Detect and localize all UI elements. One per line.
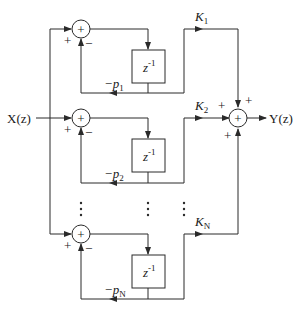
sum-2-to-delay (90, 118, 148, 138)
out-sum-plus-bottom: + (224, 128, 231, 143)
feedback-1-label: −p1 (104, 76, 124, 93)
feedback-2-label: −p2 (104, 166, 124, 183)
output-summer-plus-icon: + (234, 111, 241, 126)
branch-1: + + – z-1 −p1 K1 (64, 9, 238, 107)
sum-1-to-delay (90, 29, 148, 49)
branch-2: + + – z-1 −p2 K2 (64, 98, 229, 183)
summer-1-plus-icon: + (77, 22, 84, 37)
sum-2-plus-sign: + (64, 122, 71, 137)
gain-1-to-output (202, 29, 238, 107)
gain-n-label: KN (194, 214, 211, 231)
sum-n-plus-sign: + (64, 238, 71, 253)
summer-n-plus-icon: + (77, 227, 84, 242)
output-label: Y(z) (269, 111, 293, 126)
feedback-n-label: −pN (104, 282, 126, 299)
sum-2-minus-sign: – (85, 124, 93, 138)
summer-2-plus-icon: + (77, 111, 84, 126)
gain-1-label: K1 (194, 9, 208, 26)
out-sum-plus-top: + (245, 93, 252, 108)
ellipsis-row (80, 202, 185, 216)
gain-n-to-output (202, 129, 238, 234)
output-summer-group: + + + + Y(z) (218, 93, 293, 143)
gain-2-label: K2 (194, 98, 208, 115)
input-label: X(z) (7, 111, 31, 126)
sum-1-plus-sign: + (64, 33, 71, 48)
parallel-form-block-diagram: X(z) + + – z-1 −p1 K1 + + – z-1 −p2 (0, 0, 302, 311)
sum-n-to-delay (90, 234, 148, 254)
out-sum-plus-left: + (218, 98, 225, 113)
sum-1-minus-sign: – (85, 35, 93, 49)
sum-n-minus-sign: – (85, 240, 93, 254)
